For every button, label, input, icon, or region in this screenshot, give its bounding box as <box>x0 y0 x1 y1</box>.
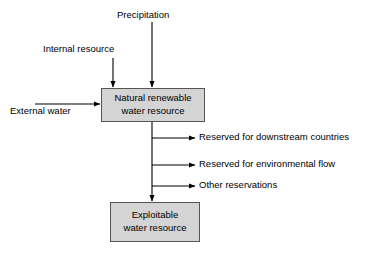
label-internal-resource: Internal resource <box>43 44 114 54</box>
node-exploitable-line-1: Exploitable <box>132 209 178 222</box>
node-natural-line-2: water resource <box>122 105 185 118</box>
label-precipitation: Precipitation <box>117 10 169 20</box>
water-resource-diagram: Natural renewable water resource Exploit… <box>0 0 380 254</box>
label-external-water: External water <box>10 106 71 116</box>
label-other-reservations: Other reservations <box>199 180 277 190</box>
node-natural-renewable-water-resource: Natural renewable water resource <box>101 88 205 122</box>
label-reserved-environmental-flow: Reserved for environmental flow <box>199 159 335 169</box>
label-reserved-downstream-countries: Reserved for downstream countries <box>199 132 349 142</box>
node-natural-line-1: Natural renewable <box>114 92 191 105</box>
node-exploitable-water-resource: Exploitable water resource <box>110 202 200 242</box>
node-exploitable-line-2: water resource <box>124 222 187 235</box>
